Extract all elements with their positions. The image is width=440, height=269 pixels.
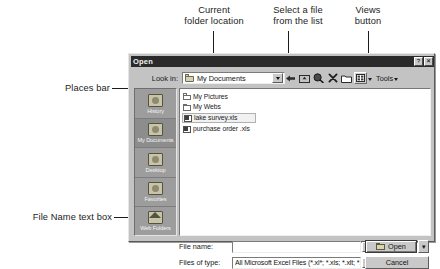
look-in-value: My Documents [197, 74, 272, 83]
look-in-combo[interactable]: My Documents [182, 72, 285, 84]
leader-current-folder-location [213, 31, 214, 55]
new-folder-icon[interactable] [340, 72, 353, 84]
places-item-label: Desktop [146, 167, 166, 173]
dialog-title: Open [133, 56, 153, 67]
list-item[interactable]: My Webs [182, 103, 256, 112]
places-item-label: Favorites [144, 196, 166, 202]
delete-x-icon[interactable] [326, 72, 339, 84]
list-item[interactable]: My Pictures [182, 92, 256, 101]
chevron-down-icon[interactable] [272, 73, 283, 83]
annotation-file-name-text-box: File Name text box [2, 212, 112, 223]
back-button[interactable] [284, 72, 297, 84]
list-item-label: My Pictures [193, 93, 228, 101]
help-button[interactable]: ? [414, 57, 423, 66]
tools-menu[interactable]: Tools [376, 74, 393, 83]
excel-file-icon [184, 115, 192, 122]
annotation-select-a-file: Select a file from the list [258, 5, 338, 26]
my-documents-icon [148, 123, 163, 136]
files-of-type-combo[interactable]: All Microsoft Excel Files (*.xl*; *.xls;… [232, 257, 361, 269]
list-item[interactable]: purchase order .xls [182, 125, 256, 134]
open-dialog: Open ? ✕ Look in: My Documents [128, 53, 435, 242]
open-button[interactable]: Open [365, 240, 417, 253]
files-of-type-label: Files of type: [179, 258, 232, 267]
file-name-row: File name: [179, 240, 374, 253]
cancel-button[interactable]: Cancel [365, 256, 429, 269]
file-name-input[interactable] [232, 241, 361, 253]
open-split-button[interactable]: ▾ [418, 240, 429, 253]
up-one-level-button[interactable] [298, 72, 311, 84]
search-globe-icon[interactable] [312, 72, 325, 84]
open-button-label: Open [388, 242, 406, 251]
folder-icon [183, 104, 191, 111]
files-of-type-row: Files of type: All Microsoft Excel Files… [179, 256, 374, 269]
desktop-icon [148, 153, 163, 166]
file-list[interactable]: My Pictures My Webs lake survey.xls purc… [179, 88, 431, 236]
places-bar: History My Documents Desktop Favorites W… [134, 88, 177, 236]
dialog-titlebar[interactable]: Open ? ✕ [131, 56, 434, 67]
annotation-current-folder-location: Current folder location [170, 5, 258, 26]
files-of-type-value: All Microsoft Excel Files (*.xl*; *.xls;… [235, 259, 360, 267]
list-item-selected[interactable]: lake survey.xls [182, 113, 256, 123]
close-button[interactable]: ✕ [424, 57, 433, 66]
list-item-label: purchase order .xls [193, 125, 250, 133]
places-item-favorites[interactable]: Favorites [135, 178, 176, 207]
places-item-label: My Documents [137, 137, 173, 143]
annotation-views-button: Views button [340, 5, 396, 26]
tools-dropdown-caret-icon[interactable] [394, 78, 398, 81]
folder-icon [183, 93, 191, 100]
dialog-toolbar: Tools [284, 71, 399, 85]
places-item-my-documents[interactable]: My Documents [135, 119, 176, 148]
list-item-label: lake survey.xls [194, 114, 237, 122]
web-folders-icon [148, 211, 163, 224]
favorites-icon [148, 182, 163, 195]
places-item-web-folders[interactable]: Web Folders [135, 207, 176, 235]
places-item-label: History [147, 108, 164, 114]
open-folder-icon [376, 243, 385, 250]
list-item-label: My Webs [193, 103, 221, 111]
history-icon [148, 94, 163, 107]
folder-icon [185, 74, 194, 82]
views-button[interactable] [354, 72, 367, 84]
titlebar-buttons: ? ✕ [414, 57, 433, 66]
excel-file-icon [183, 126, 191, 133]
file-name-label: File name: [179, 242, 232, 251]
annotation-places-bar: Places bar [20, 83, 110, 94]
places-item-label: Web Folders [140, 225, 171, 231]
views-dropdown-caret-icon[interactable] [368, 78, 372, 81]
places-item-desktop[interactable]: Desktop [135, 148, 176, 177]
look-in-label: Look in: [134, 74, 182, 83]
places-item-history[interactable]: History [135, 90, 176, 119]
